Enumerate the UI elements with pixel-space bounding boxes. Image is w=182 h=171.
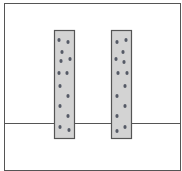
left-pillar-body <box>55 31 75 139</box>
particle-dot <box>60 50 63 54</box>
diagram-svg <box>0 0 182 171</box>
particle-dot <box>123 125 126 129</box>
particle-dot <box>58 84 61 88</box>
particle-dot <box>115 40 118 44</box>
particle-dot <box>68 57 71 61</box>
particle-dot <box>67 128 70 132</box>
particle-dot <box>115 129 118 133</box>
right-pillar <box>112 31 132 139</box>
particle-dot <box>115 114 118 118</box>
particle-dot <box>57 71 60 75</box>
particle-dot <box>66 114 69 118</box>
particle-dot <box>121 50 124 54</box>
particle-dot <box>115 94 118 98</box>
particle-dot <box>122 60 125 64</box>
particle-dot <box>59 59 62 63</box>
particle-dot <box>58 125 61 129</box>
outer-box <box>5 4 181 171</box>
diagram-canvas <box>0 0 182 171</box>
particle-dot <box>124 38 127 42</box>
particle-dot <box>125 71 128 75</box>
particle-dot <box>123 84 126 88</box>
particle-dot <box>114 57 117 61</box>
right-pillar-body <box>112 31 132 139</box>
particle-dot <box>66 94 69 98</box>
left-pillar <box>55 31 75 139</box>
particle-dot <box>57 38 60 42</box>
particle-dot <box>116 71 119 75</box>
particle-dot <box>65 71 68 75</box>
particle-dot <box>66 40 69 44</box>
pillars-group <box>55 31 132 139</box>
particle-dot <box>123 104 126 108</box>
particle-dot <box>58 104 61 108</box>
